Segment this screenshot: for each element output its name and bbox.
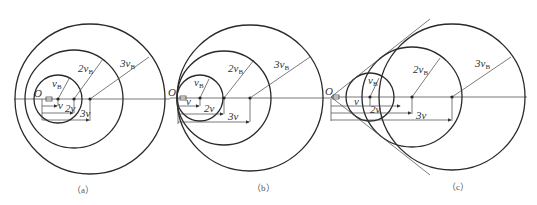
panel-caption: （a） bbox=[72, 185, 94, 195]
distance-label-3v: 3v bbox=[79, 107, 91, 119]
radius-label-1: vB bbox=[194, 76, 204, 90]
radius-label-2: 2vB bbox=[78, 62, 93, 76]
panel-caption: （c） bbox=[447, 182, 469, 192]
radius-label-1: vB bbox=[368, 74, 378, 88]
panel-b: O vB 2vB 3vB v 2v 3v （b） bbox=[168, 25, 330, 193]
distance-label-v: v bbox=[58, 99, 63, 111]
distance-label-v: v bbox=[354, 95, 359, 107]
radius-label-3: 3vB bbox=[119, 57, 135, 71]
panel-a: O vB 2vB 3vB v 2v 3v （a） bbox=[14, 24, 170, 195]
distance-label-3v: 3v bbox=[415, 109, 427, 121]
radius-label-2: 2vB bbox=[413, 63, 428, 77]
distance-label-v: v bbox=[186, 95, 191, 107]
radius-label-3: 3vB bbox=[273, 58, 289, 72]
radius-label-1: vB bbox=[52, 77, 62, 91]
distance-label-3v: 3v bbox=[227, 110, 239, 122]
radius-label-2: 2vB bbox=[228, 62, 243, 76]
origin-label: O bbox=[168, 86, 176, 98]
panel-c: O vB 2vB 3vB v 2v 3v （c） bbox=[325, 19, 527, 192]
distance-label-2v: 2v bbox=[370, 103, 381, 115]
wavefront-diagram: O vB 2vB 3vB v 2v 3v （a） O vB 2vB 3vB v … bbox=[0, 0, 537, 205]
panel-caption: （b） bbox=[252, 183, 275, 193]
origin-label: O bbox=[325, 85, 333, 97]
origin-label: O bbox=[34, 87, 42, 99]
radius-label-3: 3vB bbox=[474, 57, 490, 71]
distance-label-2v: 2v bbox=[204, 102, 215, 114]
distance-label-2v: 2v bbox=[65, 102, 76, 114]
